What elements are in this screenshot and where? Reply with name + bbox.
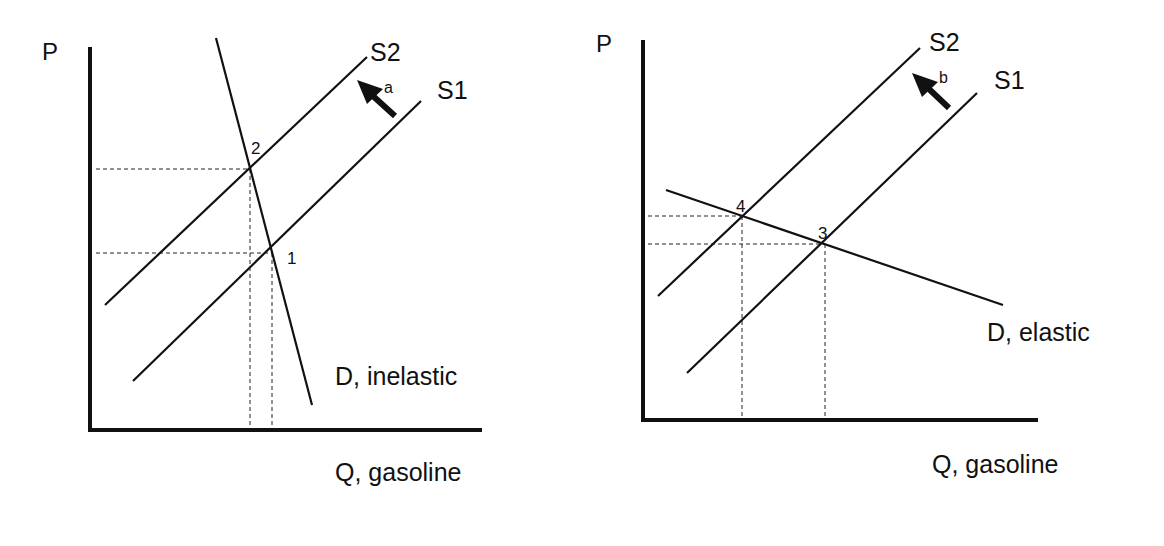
right-chart [641, 40, 1038, 422]
left-arrow-label: a [384, 80, 393, 96]
right-point-3-label: 3 [818, 225, 827, 242]
right-demand-label: D, elastic [987, 320, 1090, 345]
right-s1-label: S1 [994, 68, 1025, 93]
left-s1-label: S1 [437, 78, 468, 103]
left-point-2-label: 2 [251, 140, 260, 157]
right-dashed-guides [648, 216, 825, 418]
right-s2-curve [658, 48, 920, 296]
right-y-axis-label: P [596, 32, 612, 56]
left-x-axis-label: Q, gasoline [335, 460, 461, 485]
right-s2-label: S2 [929, 30, 960, 55]
right-s1-curve [687, 93, 977, 373]
left-s2-label: S2 [370, 40, 401, 65]
left-y-axis-label: P [42, 40, 58, 64]
right-x-axis-label: Q, gasoline [932, 452, 1058, 477]
left-point-1-label: 1 [287, 250, 296, 267]
right-arrow-label: b [939, 70, 948, 86]
left-dashed-guides [96, 169, 272, 428]
right-point-4-label: 4 [736, 198, 745, 215]
right-demand-curve [666, 190, 1003, 305]
left-s2-curve [105, 57, 367, 305]
left-demand-label: D, inelastic [335, 364, 457, 389]
